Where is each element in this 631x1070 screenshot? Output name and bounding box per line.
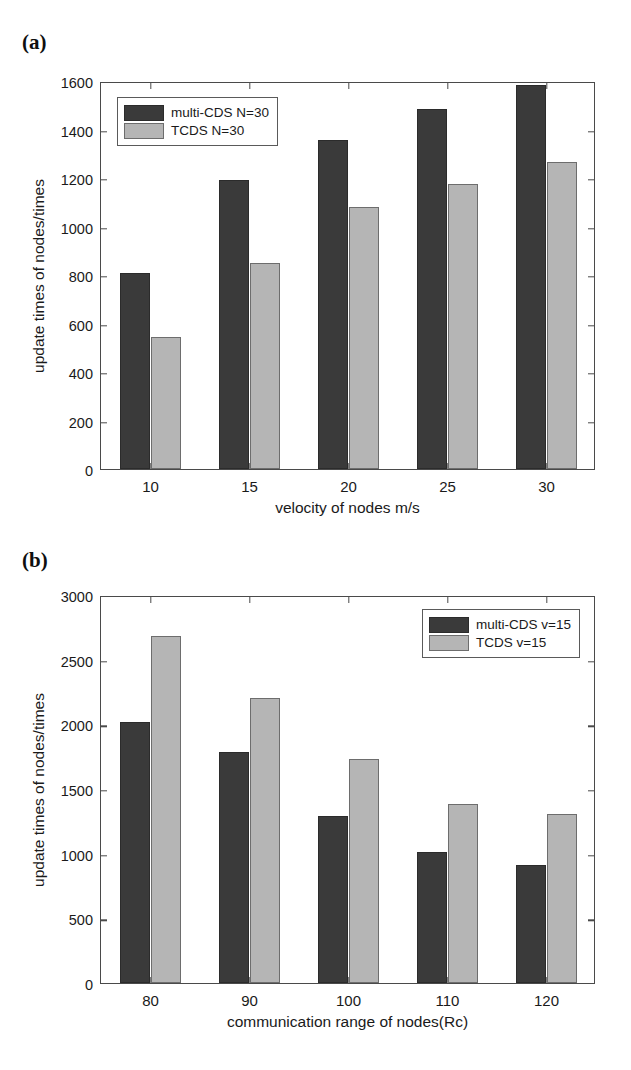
bar: [151, 636, 182, 983]
x-tick-mark: [348, 597, 349, 603]
y-tick-mark: [101, 920, 107, 921]
x-tick-label: 120: [534, 992, 559, 1009]
y-tick-mark: [588, 325, 594, 326]
y-axis-title-b: update times of nodes/times: [30, 693, 48, 887]
bar: [417, 852, 448, 983]
panel-a-label: (a): [22, 30, 47, 55]
y-tick-label: 0: [85, 463, 93, 479]
y-tick-mark: [101, 325, 107, 326]
bar: [417, 109, 448, 469]
x-tick-label: 25: [439, 478, 456, 495]
panel-b-label: (b): [22, 548, 48, 573]
panel-b: (b) update times of nodes/times communic…: [0, 530, 631, 1070]
legend-swatch-icon: [429, 617, 469, 633]
legend-item[interactable]: multi-CDS v=15: [429, 616, 571, 633]
legend: multi-CDS v=15TCDS v=15: [422, 609, 580, 658]
x-tick-label: 100: [336, 992, 361, 1009]
legend-item[interactable]: TCDS N=30: [124, 122, 269, 139]
y-tick-mark: [588, 179, 594, 180]
y-tick-label: 1500: [61, 783, 93, 799]
x-tick-label: 30: [538, 478, 555, 495]
y-tick-mark: [101, 855, 107, 856]
bar: [318, 816, 349, 983]
y-tick-mark: [101, 228, 107, 229]
y-tick-mark: [101, 422, 107, 423]
x-tick-label: 15: [241, 478, 258, 495]
bar: [349, 207, 380, 469]
x-axis-title-a: velocity of nodes m/s: [275, 499, 420, 517]
y-tick-label: 1000: [61, 221, 93, 237]
legend-label: TCDS N=30: [171, 124, 244, 138]
x-tick-mark: [150, 83, 151, 89]
y-tick-label: 0: [85, 977, 93, 993]
y-tick-mark: [588, 373, 594, 374]
figure-container: (a) update times of nodes/times velocity…: [0, 0, 631, 1070]
y-tick-mark: [101, 661, 107, 662]
legend-label: multi-CDS N=30: [171, 106, 269, 120]
y-tick-mark: [101, 276, 107, 277]
x-tick-mark: [249, 83, 250, 89]
y-tick-label: 3000: [61, 589, 93, 605]
bar: [219, 180, 250, 469]
x-tick-label: 20: [340, 478, 357, 495]
legend-swatch-icon: [429, 635, 469, 651]
y-tick-mark: [588, 920, 594, 921]
y-axis-title-a: update times of nodes/times: [30, 179, 48, 373]
legend: multi-CDS N=30TCDS N=30: [117, 97, 278, 146]
panel-a: (a) update times of nodes/times velocity…: [0, 0, 631, 535]
bar: [250, 263, 281, 469]
bar: [120, 722, 151, 983]
plot-area-a: update times of nodes/times velocity of …: [100, 82, 595, 470]
x-tick-label: 80: [142, 992, 159, 1009]
y-tick-label: 1600: [61, 75, 93, 91]
legend-label: multi-CDS v=15: [476, 618, 571, 632]
y-tick-label: 600: [69, 318, 93, 334]
bar: [547, 814, 578, 983]
legend-item[interactable]: TCDS v=15: [429, 634, 571, 651]
x-tick-mark: [447, 597, 448, 603]
x-tick-label: 110: [436, 992, 460, 1009]
bar: [151, 337, 182, 469]
y-tick-mark: [101, 131, 107, 132]
x-tick-mark: [447, 83, 448, 89]
y-tick-mark: [588, 131, 594, 132]
y-tick-mark: [588, 790, 594, 791]
x-tick-mark: [249, 597, 250, 603]
y-tick-label: 2500: [61, 654, 93, 670]
y-tick-label: 1000: [61, 848, 93, 864]
legend-swatch-icon: [124, 123, 164, 139]
y-tick-mark: [101, 726, 107, 727]
y-tick-mark: [588, 855, 594, 856]
bar: [516, 865, 547, 983]
x-tick-mark: [348, 83, 349, 89]
y-tick-label: 2000: [61, 718, 93, 734]
y-tick-label: 400: [69, 366, 93, 382]
x-tick-label: 10: [142, 478, 159, 495]
y-tick-mark: [588, 422, 594, 423]
y-tick-label: 1400: [61, 124, 93, 140]
legend-swatch-icon: [124, 105, 164, 121]
x-tick-label: 90: [241, 992, 258, 1009]
y-tick-mark: [101, 790, 107, 791]
legend-item[interactable]: multi-CDS N=30: [124, 104, 269, 121]
y-tick-mark: [101, 179, 107, 180]
bar: [250, 698, 281, 983]
plot-area-b: update times of nodes/times communicatio…: [100, 596, 595, 984]
bar: [349, 759, 380, 983]
bar: [516, 85, 547, 469]
y-tick-mark: [588, 276, 594, 277]
legend-label: TCDS v=15: [476, 636, 546, 650]
bar: [219, 752, 250, 984]
x-tick-mark: [546, 597, 547, 603]
y-tick-label: 800: [69, 269, 93, 285]
y-tick-label: 1200: [61, 172, 93, 188]
x-tick-mark: [150, 597, 151, 603]
bar: [448, 184, 479, 469]
bar: [448, 804, 479, 983]
y-tick-mark: [588, 726, 594, 727]
bar: [547, 162, 578, 469]
y-tick-mark: [101, 373, 107, 374]
y-tick-label: 200: [69, 415, 93, 431]
bar: [120, 273, 151, 469]
x-axis-title-b: communication range of nodes(Rc): [227, 1013, 468, 1031]
